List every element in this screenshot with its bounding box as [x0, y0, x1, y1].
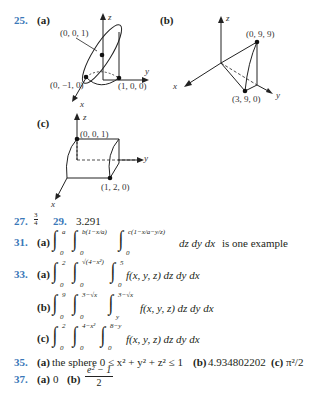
problem-number-31: 31. [14, 236, 28, 248]
differentials: dz dy dx [179, 237, 215, 249]
integrand: f(x, y, z) dz dy dx [126, 333, 200, 345]
integral-sign: ∫ [73, 260, 78, 282]
upper-limit: c(1−x/a−y/z) [128, 228, 165, 236]
integral-sign: ∫ [111, 260, 116, 282]
integral-sign: ∫ [53, 228, 58, 250]
axis-label-x: x [51, 199, 55, 209]
axis-label-y: y [145, 66, 149, 76]
answer-35c: π²/2 [286, 356, 303, 368]
upper-limit: b(1−x/a) [82, 228, 107, 236]
upper-limit: √(4−x²) [82, 258, 104, 266]
integral-sign: ∫ [73, 292, 78, 314]
lower-limit: 0 [118, 281, 122, 289]
axis-label-x: x [173, 81, 177, 91]
upper-limit: 3−√x [82, 291, 97, 299]
integral-sign: ∫ [119, 228, 124, 250]
note-text: is one example [222, 237, 288, 249]
lower-limit: 0 [60, 281, 64, 289]
integrand: f(x, y, z) dz dy dx [126, 269, 200, 281]
part-label-33a: (a) [37, 268, 50, 280]
upper-limit: 3−√x [118, 291, 133, 299]
part-label-35c: (c) [271, 356, 283, 368]
upper-limit: 2 [62, 322, 66, 330]
axis-label-z: z [108, 12, 112, 22]
lower-limit: 0 [80, 344, 84, 352]
integral-sign: ∫ [73, 228, 78, 250]
point-label: (0, 0, 1) [80, 129, 109, 139]
upper-limit: a [62, 228, 66, 236]
lower-limit: 0 [60, 344, 64, 352]
part-label-35a: (a) [37, 356, 50, 368]
fraction-37b: e² − 1 2 [85, 364, 113, 389]
lower-limit: y [116, 313, 119, 321]
lower-limit: 0 [80, 249, 84, 257]
problem-number-35: 35. [14, 356, 28, 368]
problem-number-37: 37. [14, 373, 28, 385]
integrand: f(x, y, z) dz dy dx [140, 302, 214, 314]
integral-sign: ∫ [73, 324, 78, 346]
lower-limit: 0 [126, 249, 130, 257]
integral-sign: ∫ [53, 292, 58, 314]
axis-label-z: z [83, 112, 87, 122]
axis-label-y: y [144, 153, 148, 163]
lower-limit: 0 [108, 344, 112, 352]
upper-limit: 8−y [110, 322, 121, 330]
point-label: (1, 2, 0) [101, 182, 130, 192]
integral-sign: ∫ [53, 260, 58, 282]
lower-limit: 0 [80, 281, 84, 289]
part-label-33c: (c) [37, 332, 49, 344]
part-label-33b: (b) [37, 301, 50, 313]
integral-sign: ∫ [53, 324, 58, 346]
problem-number-27: 27. [14, 215, 28, 227]
upper-limit: 9 [62, 291, 66, 299]
fraction-27: 3 4 [34, 212, 38, 227]
integral-sign: ∫ [101, 324, 106, 346]
point-label: (3, 9, 0) [232, 94, 261, 104]
upper-limit: 5 [120, 259, 124, 267]
part-label-37b: (b) [67, 373, 80, 385]
part-label-35b: (b) [193, 356, 206, 368]
upper-limit: 2 [62, 259, 66, 267]
part-label-31a: (a) [37, 236, 50, 248]
axis-label-y: y [276, 90, 280, 100]
point-label: (0, −1, 0) [50, 80, 84, 90]
integral-sign: ∫ [109, 292, 114, 314]
problem-number-33: 33. [14, 268, 28, 280]
answer-29: 3.291 [76, 215, 101, 227]
axis-label-z: z [226, 13, 230, 23]
answer-37a: 0 [53, 373, 59, 385]
answer-35a: the sphere 0 ≤ x² + y² + z² ≤ 1 [52, 356, 183, 368]
upper-limit: 4−x² [82, 322, 95, 330]
lower-limit: 0 [80, 313, 84, 321]
answer-35b: 4.934802202 [208, 356, 266, 368]
figure-25a [0, 0, 160, 110]
point-label: (1, 0, 0) [118, 81, 147, 91]
lower-limit: 0 [60, 313, 64, 321]
lower-limit: 0 [60, 249, 64, 257]
part-label-37a: (a) [37, 373, 50, 385]
point-label: (0, 9, 9) [246, 29, 275, 39]
figure-25c [0, 105, 200, 205]
point-label: (0, 0, 1) [60, 28, 89, 38]
